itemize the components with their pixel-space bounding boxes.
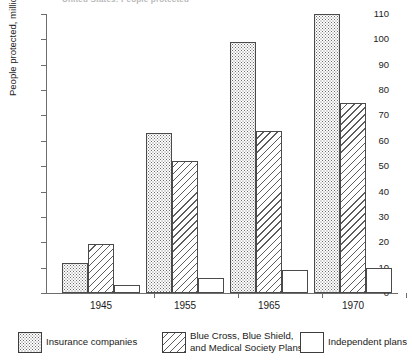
plot-area: 0102030405060708090100110 19451955196519… (46, 14, 398, 293)
bar (230, 42, 256, 293)
y-tick (41, 14, 46, 15)
legend-item[interactable]: Insurance companies (18, 324, 158, 361)
y-tick (41, 268, 46, 269)
bar (366, 268, 392, 293)
bar-group (230, 14, 308, 293)
y-tick (41, 293, 46, 294)
legend-label: Independent plans (328, 336, 407, 348)
y-tick (41, 242, 46, 243)
y-tick (41, 217, 46, 218)
y-axis-label-wrap: People protected, millions (8, 0, 20, 279)
bar (88, 244, 114, 293)
x-tick (154, 293, 155, 298)
legend-label-line2: and Medical Society Plans (190, 342, 303, 354)
y-tick (41, 166, 46, 167)
bar (62, 263, 88, 293)
bar (314, 14, 340, 293)
bar-group (314, 14, 392, 293)
legend-swatch (300, 332, 324, 353)
y-tick (41, 141, 46, 142)
bar (114, 285, 140, 293)
bar (340, 103, 366, 293)
x-tick (238, 293, 239, 298)
legend-swatch (18, 332, 42, 353)
y-tick (41, 90, 46, 91)
x-axis-line (46, 293, 398, 294)
legend-label: Blue Cross, Blue Shield,and Medical Soci… (190, 330, 303, 353)
y-tick (41, 65, 46, 66)
x-tick-label: 1965 (244, 300, 294, 311)
y-tick (41, 115, 46, 116)
bar (198, 278, 224, 293)
bar (282, 270, 308, 293)
chart-title-cropped: United States: People protected (62, 0, 312, 4)
bar (256, 131, 282, 293)
legend-item[interactable]: Blue Cross, Blue Shield,and Medical Soci… (162, 324, 312, 361)
bar (146, 133, 172, 293)
y-tick (41, 192, 46, 193)
legend-label: Insurance companies (46, 336, 137, 348)
legend-swatch (162, 332, 186, 353)
bar-group (146, 14, 224, 293)
bar (172, 161, 198, 293)
legend-item[interactable]: Independent plans (300, 324, 410, 361)
x-tick-label: 1945 (76, 300, 126, 311)
y-axis-label: People protected, millions (7, 0, 18, 96)
y-tick (41, 39, 46, 40)
legend-label-line1: Blue Cross, Blue Shield, (190, 330, 303, 342)
bar-group (62, 14, 140, 293)
bar-chart: United States: People protected People p… (0, 0, 413, 361)
x-tick-label: 1955 (160, 300, 210, 311)
x-tick (406, 293, 407, 298)
x-tick-label: 1970 (328, 300, 378, 311)
y-axis-line (46, 14, 47, 293)
x-tick (322, 293, 323, 298)
chart-legend: Insurance companiesBlue Cross, Blue Shie… (0, 324, 413, 361)
